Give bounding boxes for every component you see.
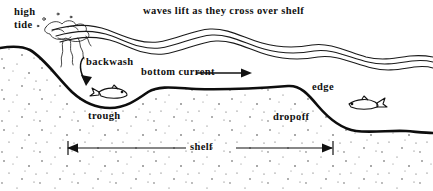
label-high-tide-line2: tide — [14, 19, 33, 30]
coastal-shelf-diagram: high tide waves lift as they cross over … — [0, 0, 433, 191]
label-shelf: shelf — [190, 141, 213, 152]
label-high-tide-line1: high — [14, 6, 35, 17]
label-waves-lift: waves lift as they cross over shelf — [143, 5, 304, 16]
fish-icon — [349, 96, 387, 109]
diagram-canvas — [0, 0, 433, 191]
label-edge: edge — [312, 81, 334, 92]
label-trough: trough — [88, 110, 121, 121]
label-backwash: backwash — [86, 56, 134, 67]
fish-icon — [90, 85, 127, 98]
label-bottom-current: bottom current — [141, 66, 215, 77]
label-dropoff: dropoff — [273, 111, 309, 122]
